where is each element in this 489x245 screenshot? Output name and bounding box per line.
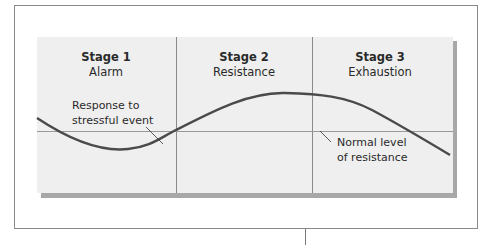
stage-3-name: Exhaustion	[348, 65, 412, 79]
normal-annotation-line2: of resistance	[337, 151, 408, 164]
stage-3-title: Stage 3	[355, 50, 405, 64]
stress-response-diagram: Stage 1 Alarm Stage 2 Resistance Stage 3…	[0, 0, 489, 245]
stage-1-name: Alarm	[89, 65, 123, 79]
response-annotation-line1: Response to	[72, 99, 140, 112]
stage-2-name: Resistance	[213, 65, 275, 79]
stage-2-title: Stage 2	[219, 50, 269, 64]
stage-1-title: Stage 1	[81, 50, 131, 64]
response-annotation-line2: stressful event	[72, 114, 154, 127]
normal-annotation-line1: Normal level	[337, 136, 406, 149]
